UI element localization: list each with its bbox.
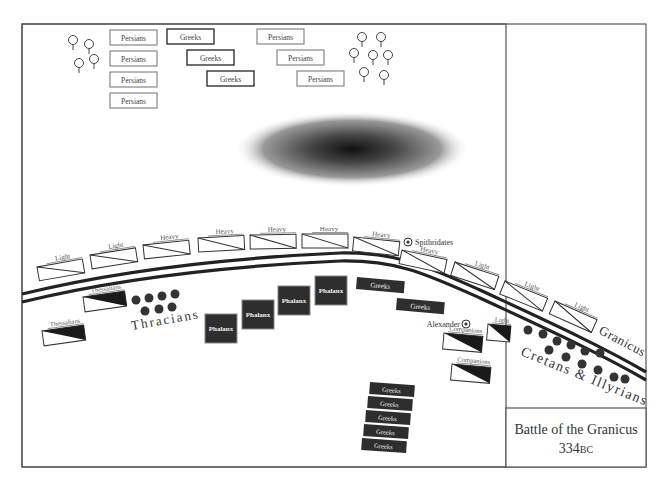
- greek-reserve-unit: Greeks: [367, 396, 413, 411]
- cavalry-type-label: Heavy: [320, 225, 339, 233]
- greek-reserve-label: Greeks: [378, 414, 397, 422]
- persian-infantry-unit: Persians: [110, 93, 157, 108]
- companion-unit: Companions: [451, 355, 492, 383]
- persian-cavalry-unit: Heavy: [250, 225, 296, 249]
- persian-infantry-unit-label: Persians: [121, 97, 146, 106]
- greek-reserve-label: Greeks: [374, 442, 393, 450]
- greek-mercenary-unit-label: Greeks: [180, 33, 201, 42]
- persian-cavalry-unit: Light: [35, 250, 84, 281]
- greek-ally-unit: Greeks: [356, 277, 405, 293]
- greek-mercenary-unit: Greeks: [167, 29, 214, 44]
- greek-allies-reserve: GreeksGreeksGreeksGreeksGreeks: [361, 382, 415, 453]
- cavalry-type-label: Heavy: [215, 227, 234, 236]
- commander-marker: Spithridates: [404, 238, 453, 247]
- persian-cavalry-unit: Light: [500, 273, 551, 312]
- persian-cavalry-unit: Light: [451, 253, 502, 289]
- phalanx-label: Phalanx: [209, 325, 234, 333]
- cavalry-type-label: Light: [108, 241, 124, 251]
- greek-mercenary-unit-label: Greeks: [200, 54, 221, 63]
- persian-infantry-unit-label: Persians: [121, 34, 146, 43]
- cavalry-type-label: Heavy: [268, 225, 287, 233]
- persian-cavalry-unit: Heavy: [353, 228, 401, 256]
- companion-cavalry: CompanionsLightCompanions: [443, 315, 512, 383]
- persian-infantry-unit: Persians: [277, 50, 324, 65]
- persian-infantry-unit-label: Persians: [288, 54, 313, 63]
- thessalian-cavalry: ThessaliansThessalians: [41, 282, 127, 346]
- persian-cavalry-unit: Light: [89, 239, 138, 269]
- commander-name: Spithridates: [415, 238, 453, 247]
- battle-map: PersiansPersiansPersiansPersiansPersians…: [0, 0, 667, 490]
- greek-mercenary-unit: Greeks: [207, 71, 254, 86]
- persian-cavalry-unit: Heavy: [302, 225, 348, 248]
- hill-shading: [234, 111, 470, 187]
- persian-infantry-unit-label: Persians: [268, 33, 293, 42]
- greek-mercenary-unit-label: Greeks: [220, 75, 241, 84]
- persian-infantry-unit-label: Persians: [308, 75, 333, 84]
- cavalry-type-label: Heavy: [372, 230, 392, 240]
- persian-infantry-unit: Persians: [110, 72, 157, 87]
- phalanx-unit: Phalanx: [278, 286, 310, 315]
- cavalry-type-label: Heavy: [160, 232, 180, 242]
- persian-cavalry-unit: Heavy: [142, 231, 190, 259]
- greek-mercenaries: GreeksGreeksGreeks: [167, 29, 254, 86]
- greek-reserve-unit: Greeks: [361, 438, 407, 453]
- greek-ally-unit: Greeks: [396, 298, 445, 314]
- persian-infantry-unit: Persians: [257, 29, 304, 44]
- greek-reserve-unit: Greeks: [363, 424, 409, 439]
- phalanx-unit: Phalanx: [242, 300, 274, 329]
- companion-unit: Companions: [443, 324, 484, 352]
- map-year: 334BC: [559, 441, 594, 456]
- phalanx-unit: Phalanx: [315, 276, 347, 305]
- persian-infantry-reserve: PersiansPersiansPersiansPersiansPersians…: [110, 29, 344, 108]
- phalanx-label: Phalanx: [246, 311, 271, 319]
- unit-type-label: Light: [495, 316, 510, 324]
- greek-mercenary-unit: Greeks: [187, 50, 234, 65]
- phalanx-label: Phalanx: [282, 297, 307, 305]
- light-cavalry-unit: Light: [487, 315, 512, 342]
- tree-group-left: [69, 36, 99, 74]
- greek-reserve-label: Greeks: [382, 386, 401, 394]
- persian-cavalry-unit: Heavy: [198, 227, 245, 252]
- persian-infantry-unit-label: Persians: [121, 76, 146, 85]
- greek-reserve-unit: Greeks: [369, 382, 415, 397]
- greek-reserve-label: Greeks: [380, 400, 399, 408]
- tree-group-right: [350, 33, 393, 86]
- unit-type-label: Companions: [457, 355, 491, 365]
- thracians-label: Thracians: [130, 306, 201, 333]
- persian-infantry-unit: Persians: [110, 30, 157, 45]
- persian-infantry-unit: Persians: [297, 71, 344, 86]
- persian-infantry-unit-label: Persians: [121, 55, 146, 64]
- greek-reserve-label: Greeks: [376, 428, 395, 436]
- phalanx-unit: Phalanx: [205, 314, 237, 343]
- river-label: Granicus: [597, 322, 649, 359]
- thessalian-unit: Thessalians: [41, 316, 86, 346]
- map-title: Battle of the Granicus: [514, 422, 637, 437]
- title-box: Battle of the Granicus 334BC: [506, 408, 646, 467]
- macedonian-phalanx: PhalanxPhalanxPhalanxPhalanx: [205, 276, 347, 343]
- unit-type-label: Companions: [449, 324, 483, 334]
- persian-infantry-unit: Persians: [110, 51, 157, 66]
- phalanx-label: Phalanx: [319, 287, 344, 295]
- greek-reserve-unit: Greeks: [365, 410, 411, 425]
- greek-allies-front: GreeksGreeks: [356, 277, 445, 314]
